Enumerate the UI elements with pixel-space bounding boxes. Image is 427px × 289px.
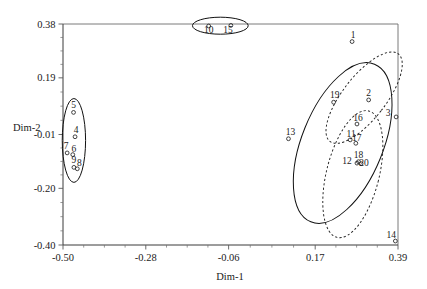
point-marker-7 (65, 151, 69, 155)
point-marker-1 (350, 40, 354, 44)
point-label-1: 1 (351, 30, 356, 40)
point-label-10: 10 (204, 25, 214, 35)
data-point-20: 20 (359, 158, 369, 168)
data-point-13: 13 (286, 127, 296, 141)
data-point-10: 10 (204, 24, 214, 35)
point-label-7: 7 (64, 141, 69, 151)
data-point-4: 4 (73, 125, 79, 139)
point-label-3: 3 (386, 108, 391, 118)
x-tick-label: 0.39 (389, 252, 407, 263)
scatter-plot-figure: -0.50-0.28-0.060.170.39 -0.40-0.20-0.010… (0, 0, 427, 289)
point-label-6: 6 (71, 144, 76, 154)
data-point-15: 15 (223, 24, 233, 36)
point-marker-19 (332, 100, 336, 104)
data-point-1: 1 (350, 30, 356, 44)
ellipse-cluster-right-a (313, 41, 415, 155)
x-tick-label: -0.28 (135, 252, 157, 263)
cluster-ellipses (62, 17, 415, 244)
x-tick-label: 0.17 (306, 252, 324, 263)
point-label-8: 8 (77, 158, 82, 168)
point-label-5: 5 (71, 100, 76, 110)
y-tick-label: 0.19 (37, 72, 55, 83)
point-label-4: 4 (74, 125, 79, 135)
data-point-7: 7 (64, 141, 69, 155)
data-point-16: 16 (353, 113, 363, 126)
point-label-17: 17 (352, 133, 362, 143)
point-label-15: 15 (223, 25, 233, 35)
x-axis-ticks: -0.50-0.28-0.060.170.39 (52, 245, 407, 263)
data-point-5: 5 (71, 100, 76, 114)
point-label-12: 12 (342, 156, 352, 166)
x-tick-label: -0.50 (52, 252, 74, 263)
point-label-14: 14 (387, 230, 397, 240)
point-marker-2 (367, 98, 371, 102)
data-point-17: 17 (352, 133, 362, 145)
x-tick-label: -0.06 (218, 252, 240, 263)
x-axis-title: Dim-1 (216, 271, 243, 282)
data-point-9: 9 (72, 155, 77, 169)
point-marker-3 (394, 115, 398, 119)
point-marker-9 (72, 165, 76, 169)
y-tick-label: -0.20 (34, 183, 56, 194)
point-label-19: 19 (330, 90, 340, 100)
point-label-13: 13 (286, 127, 296, 137)
y-axis-title: Dim-2 (13, 122, 40, 133)
y-tick-label: -0.40 (34, 240, 56, 251)
point-marker-5 (72, 111, 76, 115)
point-label-9: 9 (72, 155, 77, 165)
point-marker-4 (73, 135, 77, 139)
point-label-16: 16 (353, 113, 363, 123)
y-tick-label: 0.38 (37, 19, 55, 30)
ellipse-cluster-top (192, 17, 248, 34)
data-point-19: 19 (330, 90, 340, 104)
ellipse-cluster-right (273, 49, 412, 237)
y-axis-ticks: -0.40-0.20-0.010.190.38 (34, 19, 63, 251)
point-marker-13 (287, 137, 291, 141)
point-label-20: 20 (359, 158, 369, 168)
scatter-plot-canvas: -0.50-0.28-0.060.170.39 -0.40-0.20-0.010… (0, 0, 427, 289)
data-points: 1234567891011121314151617181920 (64, 24, 398, 243)
data-point-14: 14 (387, 230, 398, 243)
point-label-2: 2 (366, 88, 371, 98)
data-point-2: 2 (366, 88, 371, 102)
data-point-8: 8 (75, 158, 82, 171)
